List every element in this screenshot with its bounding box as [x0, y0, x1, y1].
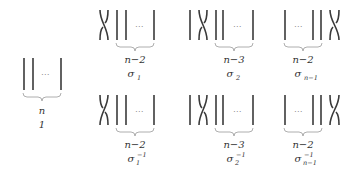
generator-exponent: −1: [304, 151, 314, 159]
generator-index: 1: [137, 74, 141, 82]
underbrace: [23, 93, 61, 101]
underbrace: [215, 43, 253, 51]
underbrace: [284, 43, 322, 51]
underbrace: [116, 43, 154, 51]
generator-index: n−1: [303, 159, 317, 167]
ellipsis: ⋯: [233, 22, 241, 31]
strand-count-label: n−3: [223, 139, 244, 150]
crossing-strand-over: [199, 95, 207, 125]
crossing-strand-over: [199, 10, 207, 40]
ellipsis: ⋯: [294, 22, 302, 31]
ellipsis: ⋯: [294, 107, 302, 116]
strand-count-label: n−2: [124, 54, 145, 65]
ellipsis: ⋯: [135, 107, 143, 116]
crossing-strand-over: [330, 10, 339, 40]
generator-index: 1: [136, 159, 140, 167]
generator-symbol: σ: [295, 153, 303, 164]
generator-exponent: −1: [236, 151, 246, 159]
strand-count-label: n−2: [124, 139, 145, 150]
strand-count-label: n: [39, 105, 45, 116]
generator-sigma-1: ⋯ n−2 σ 1: [100, 10, 154, 82]
generator-sigma-2: ⋯ n−3 σ 2: [190, 10, 253, 82]
ellipsis: ⋯: [41, 70, 49, 79]
generator-index: 2: [234, 159, 239, 167]
ellipsis: ⋯: [233, 107, 241, 116]
crossing-strand-over: [100, 10, 108, 40]
identity-braid: ⋯ n 1: [23, 58, 61, 130]
inverse-sigma-n-minus-1: ⋯ n−2 σ n−1 −1: [284, 95, 339, 167]
generator-symbol: σ: [295, 68, 303, 79]
strand-count-label: n−2: [292, 139, 313, 150]
generator-exponent: −1: [137, 151, 147, 159]
underbrace: [116, 128, 154, 136]
generator-name: 1: [39, 119, 45, 130]
generator-symbol: σ: [227, 68, 235, 79]
inverse-sigma-2: ⋯ n−3 σ 2 −1: [190, 95, 253, 167]
ellipsis: ⋯: [135, 22, 143, 31]
generator-symbol: σ: [128, 153, 136, 164]
crossing-strand-over: [330, 95, 339, 125]
generator-sigma-n-minus-1: ⋯ n−2 σ n−1: [284, 10, 339, 82]
underbrace: [215, 128, 253, 136]
underbrace: [284, 128, 322, 136]
strand-count-label: n−2: [292, 54, 313, 65]
crossing-strand-over: [100, 95, 108, 125]
inverse-sigma-1: ⋯ n−2 σ 1 −1: [100, 95, 154, 167]
generator-symbol: σ: [227, 153, 235, 164]
generator-symbol: σ: [128, 68, 136, 79]
strand-count-label: n−3: [223, 54, 244, 65]
generator-index: 2: [235, 74, 240, 82]
generator-index: n−1: [304, 74, 318, 82]
braid-diagram: ⋯ n 1 ⋯ n−2 σ 1 ⋯ n−3 σ 2 ⋯: [0, 0, 358, 172]
